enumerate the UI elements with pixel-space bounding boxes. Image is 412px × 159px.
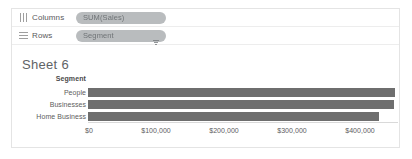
row-field-header: Segment (12, 75, 86, 82)
x-tick-0: $0 (85, 127, 93, 134)
bar-people[interactable] (88, 88, 395, 97)
row-label-home-business: Home Business (12, 111, 86, 122)
x-tick-1: $100,000 (141, 127, 171, 134)
pill-segment[interactable]: Segment (76, 30, 166, 42)
rows-icon (19, 31, 28, 40)
chart-row: People (12, 87, 400, 98)
bar-businesses[interactable] (88, 100, 394, 109)
chart-row: Home Business (12, 111, 400, 122)
sheet-title: Sheet 6 (22, 57, 69, 72)
pill-segment-label: Segment (83, 31, 114, 40)
chart-row: Businesses (12, 99, 400, 110)
row-label-people: People (12, 87, 86, 98)
x-tick-2: $200,000 (209, 127, 239, 134)
bar-home-business[interactable] (88, 112, 379, 121)
x-tick-3: $300,000 (277, 127, 307, 134)
x-axis-line (88, 122, 398, 123)
row-label-businesses: Businesses (12, 99, 86, 110)
x-axis: $0 $100,000 $200,000 $300,000 $400,000 (12, 122, 400, 142)
pill-sum-sales-label: SUM(Sales) (83, 13, 124, 22)
columns-icon (19, 13, 28, 22)
rows-shelf[interactable]: Rows Segment (12, 27, 399, 45)
columns-shelf-label: Columns (32, 13, 76, 22)
bar-chart: Segment People Businesses Home Business … (12, 75, 400, 147)
worksheet-card: Columns SUM(Sales) Rows Segment Sheet 6 … (11, 8, 400, 148)
rows-shelf-label: Rows (32, 31, 76, 40)
columns-shelf[interactable]: Columns SUM(Sales) (12, 9, 399, 27)
pill-sum-sales[interactable]: SUM(Sales) (76, 12, 166, 24)
sort-descending-icon[interactable] (153, 32, 160, 39)
x-tick-4: $400,000 (345, 127, 375, 134)
